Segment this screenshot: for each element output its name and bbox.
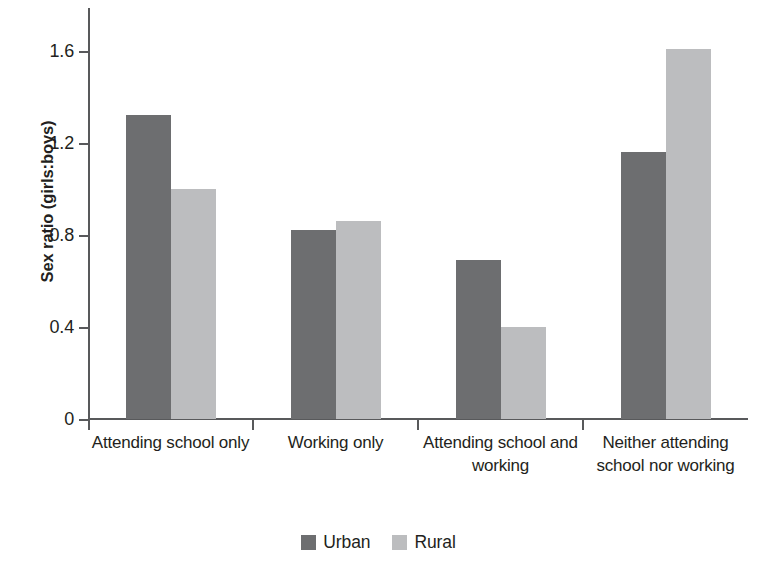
y-tick-label: 0.8	[50, 225, 74, 246]
x-category-label: Attending school only	[88, 431, 253, 454]
y-tick-mark	[79, 143, 88, 145]
y-axis-title: Sex ratio (girls:boys)	[38, 67, 57, 337]
x-category-label: Attending school and working	[418, 431, 583, 477]
y-tick-label: 0.4	[50, 317, 74, 338]
x-tick-mark	[417, 420, 419, 430]
legend-item-rural[interactable]: Rural	[392, 532, 455, 553]
bar-urban-0	[126, 115, 171, 419]
plot-area	[88, 8, 748, 419]
x-tick-mark	[88, 420, 90, 430]
y-tick-mark	[79, 327, 88, 329]
bar-rural-0	[171, 189, 216, 419]
y-tick-mark	[79, 235, 88, 237]
x-tick-mark	[252, 420, 254, 430]
legend-label: Urban	[323, 532, 370, 553]
y-tick-label: 1.2	[50, 133, 74, 154]
bar-rural-3	[666, 49, 711, 419]
bar-urban-3	[621, 152, 666, 419]
legend: UrbanRural	[0, 532, 757, 553]
legend-swatch-urban-icon	[301, 535, 316, 550]
legend-item-urban[interactable]: Urban	[301, 532, 370, 553]
x-category-label: Neither attending school nor working	[583, 431, 748, 477]
y-tick-mark	[79, 419, 88, 421]
legend-swatch-rural-icon	[392, 535, 407, 550]
bar-urban-2	[456, 260, 501, 419]
bar-rural-2	[501, 327, 546, 419]
y-tick-mark	[79, 51, 88, 53]
y-tick-label: 0	[64, 409, 74, 430]
legend-label: Rural	[414, 532, 455, 553]
x-category-label: Working only	[253, 431, 418, 454]
bar-rural-1	[336, 221, 381, 419]
y-tick-label: 1.6	[50, 41, 74, 62]
bar-urban-1	[291, 230, 336, 419]
bar-chart: Sex ratio (girls:boys) 00.40.81.21.6 Att…	[0, 0, 757, 566]
x-tick-mark	[582, 420, 584, 430]
